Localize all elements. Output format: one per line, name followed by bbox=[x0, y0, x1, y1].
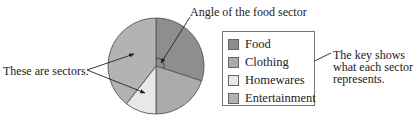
swatch-icon bbox=[228, 39, 239, 50]
swatch-icon bbox=[228, 75, 239, 86]
sectors-label: These are sectors. bbox=[3, 65, 89, 77]
legend-item-entertainment: Entertainment bbox=[228, 91, 316, 105]
legend-label: Food bbox=[245, 37, 271, 51]
legend-label: Clothing bbox=[245, 55, 289, 69]
legend-label: Entertainment bbox=[245, 91, 316, 105]
pie-chart bbox=[108, 18, 204, 114]
key-note: The key shows what each sector represent… bbox=[333, 49, 413, 85]
legend: Food Clothing Homewares Entertainment bbox=[222, 31, 315, 106]
key-note-line: represents. bbox=[333, 73, 413, 85]
angle-label: Angle of the food sector bbox=[190, 6, 307, 18]
swatch-icon bbox=[228, 57, 239, 68]
legend-item-homewares: Homewares bbox=[228, 73, 305, 87]
legend-item-food: Food bbox=[228, 37, 271, 51]
legend-label: Homewares bbox=[245, 73, 305, 87]
swatch-icon bbox=[228, 93, 239, 104]
legend-item-clothing: Clothing bbox=[228, 55, 289, 69]
